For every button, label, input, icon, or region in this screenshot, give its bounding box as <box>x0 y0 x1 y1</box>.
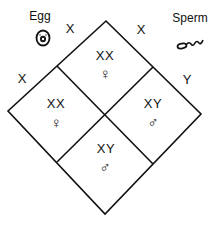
sperm-allele-top: X <box>137 23 146 36</box>
egg-allele-top: X <box>66 22 75 35</box>
egg-allele-left: X <box>18 72 27 85</box>
cell-top-genotype: XX <box>96 49 114 62</box>
female-symbol-icon: ♀ <box>50 116 61 129</box>
sperm-label: Sperm <box>172 12 207 25</box>
cell-bottom-genotype: XY <box>97 142 115 155</box>
male-symbol-icon: ♂ <box>99 160 110 173</box>
egg-label: Egg <box>29 10 50 23</box>
sperm-allele-right: Y <box>183 73 192 86</box>
sperm-cell-icon <box>177 40 203 49</box>
cell-right-genotype: XY <box>144 97 162 110</box>
punnett-grid <box>0 0 215 227</box>
male-symbol-icon: ♂ <box>147 115 158 128</box>
cell-left-genotype: XX <box>47 97 65 110</box>
female-symbol-icon: ♀ <box>99 67 110 80</box>
egg-cell-icon <box>37 31 50 46</box>
